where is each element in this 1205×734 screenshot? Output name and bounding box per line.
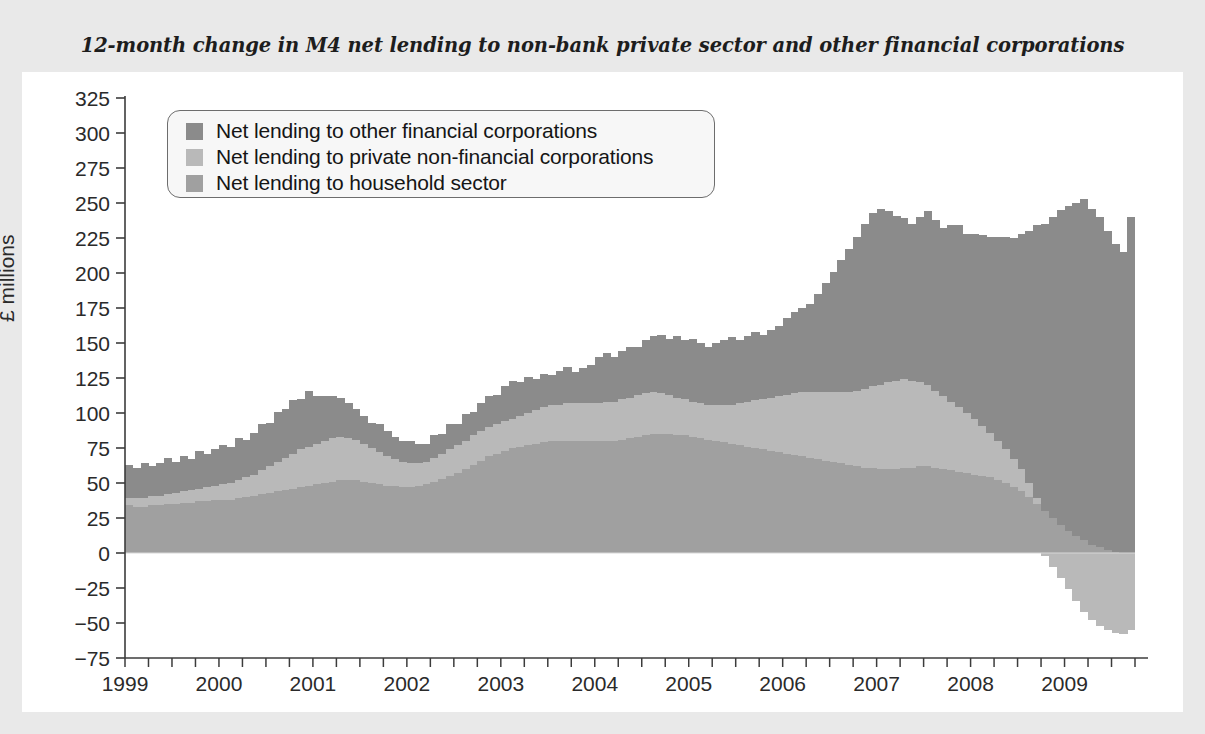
svg-text:0: 0	[98, 542, 110, 565]
legend-swatch-pnfc	[186, 149, 203, 166]
svg-text:−25: −25	[74, 577, 110, 600]
svg-text:275: 275	[75, 157, 110, 180]
legend-item-household[interactable]: Net lending to household sector	[186, 170, 714, 196]
legend-swatch-ofc	[186, 123, 203, 140]
svg-text:−50: −50	[74, 612, 110, 635]
plot-area: 3253002752502252001751501251007550250−25…	[22, 72, 1183, 712]
legend-label-pnfc: Net lending to private non-financial cor…	[216, 145, 653, 169]
legend-label-household: Net lending to household sector	[216, 171, 507, 195]
svg-text:75: 75	[87, 437, 110, 460]
svg-text:125: 125	[75, 367, 110, 390]
svg-text:325: 325	[75, 87, 110, 110]
svg-text:150: 150	[75, 332, 110, 355]
figure-container: 12-month change in M4 net lending to non…	[0, 0, 1205, 734]
svg-text:2002: 2002	[384, 672, 431, 695]
chart-title: 12-month change in M4 net lending to non…	[0, 34, 1205, 57]
legend-item-pnfc[interactable]: Net lending to private non-financial cor…	[186, 144, 714, 170]
svg-text:2004: 2004	[571, 672, 618, 695]
chart-panel: 3253002752502252001751501251007550250−25…	[22, 72, 1183, 712]
svg-text:225: 225	[75, 227, 110, 250]
svg-text:2007: 2007	[853, 672, 900, 695]
svg-text:2005: 2005	[665, 672, 712, 695]
svg-text:2008: 2008	[947, 672, 994, 695]
svg-text:2003: 2003	[477, 672, 524, 695]
legend-swatch-household	[186, 175, 203, 192]
legend-label-ofc: Net lending to other financial corporati…	[216, 119, 597, 143]
chart-legend: Net lending to other financial corporati…	[167, 110, 715, 198]
svg-text:1999: 1999	[102, 672, 149, 695]
svg-text:−75: −75	[74, 647, 110, 670]
svg-text:2009: 2009	[1041, 672, 1088, 695]
svg-text:100: 100	[75, 402, 110, 425]
svg-text:2001: 2001	[290, 672, 337, 695]
svg-text:2000: 2000	[196, 672, 243, 695]
svg-text:250: 250	[75, 192, 110, 215]
svg-text:200: 200	[75, 262, 110, 285]
svg-text:25: 25	[87, 507, 110, 530]
svg-text:50: 50	[87, 472, 110, 495]
legend-item-ofc[interactable]: Net lending to other financial corporati…	[186, 118, 714, 144]
svg-text:2006: 2006	[759, 672, 806, 695]
svg-text:300: 300	[75, 122, 110, 145]
svg-text:175: 175	[75, 297, 110, 320]
y-axis-label: £ millions	[0, 122, 19, 322]
